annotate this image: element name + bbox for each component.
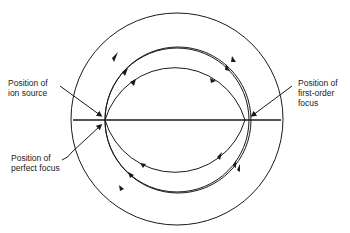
perfect-focus-leader — [62, 126, 100, 160]
arrow-icon — [130, 79, 136, 86]
label-line: Position of — [8, 78, 48, 88]
focusing-diagram: Position of ion source Position of perfe… — [0, 0, 350, 233]
arrow-icon — [119, 185, 124, 191]
upper-arc-1 — [105, 68, 245, 120]
arrow-icon — [237, 164, 240, 172]
lower-arc-3 — [105, 120, 251, 193]
label-line: perfect focus — [11, 163, 60, 173]
direction-arrows — [112, 52, 240, 191]
label-line: first-order — [298, 88, 338, 98]
arrow-icon — [112, 52, 118, 62]
lower-arc-1 — [105, 120, 245, 172]
label-line: focus — [298, 98, 338, 108]
first-order-focus-label: Position of first-order focus — [298, 78, 338, 108]
trajectory-figure — [0, 0, 350, 233]
ion-source-label: Position of ion source — [8, 78, 48, 98]
first-order-leader — [253, 86, 292, 115]
ion-source-leader — [60, 86, 100, 115]
label-line: Position of — [298, 78, 338, 88]
upper-arc-2 — [105, 48, 249, 120]
label-line: Position of — [11, 153, 60, 163]
upper-arc-3 — [105, 47, 251, 120]
label-line: ion source — [8, 88, 48, 98]
arrow-icon — [231, 56, 236, 62]
lower-arc-2 — [105, 120, 249, 192]
perfect-focus-label: Position of perfect focus — [11, 153, 60, 173]
